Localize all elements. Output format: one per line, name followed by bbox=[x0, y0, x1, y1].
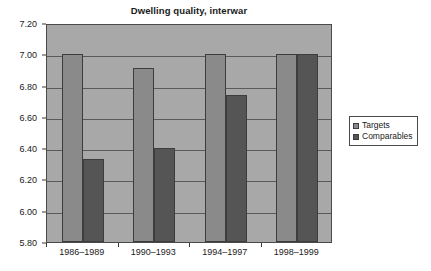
plot-inner bbox=[47, 25, 331, 242]
x-tick-mark bbox=[189, 243, 190, 247]
x-tick-label: 1986–1989 bbox=[59, 247, 104, 257]
y-tick-mark bbox=[42, 55, 46, 56]
y-tick-label: 5.80 bbox=[19, 238, 37, 248]
bar-targets-0 bbox=[62, 54, 83, 242]
y-tick-mark bbox=[42, 117, 46, 118]
legend-item-comparables[interactable]: Comparables bbox=[353, 131, 413, 142]
bar-chart: Dwelling quality, interwar 7.207.006.806… bbox=[0, 0, 431, 271]
y-tick-label: 7.00 bbox=[19, 50, 37, 60]
x-tick-label: 1990–1993 bbox=[131, 247, 176, 257]
bar-comparables-1 bbox=[154, 148, 175, 242]
y-tick-label: 6.00 bbox=[19, 207, 37, 217]
bar-comparables-0 bbox=[83, 159, 104, 242]
bar-comparables-2 bbox=[226, 95, 247, 242]
bar-targets-2 bbox=[205, 54, 226, 242]
y-tick-mark bbox=[42, 211, 46, 212]
y-tick-mark bbox=[42, 149, 46, 150]
bar-targets-1 bbox=[133, 68, 154, 242]
chart-title: Dwelling quality, interwar bbox=[46, 5, 332, 16]
x-tick-mark bbox=[261, 243, 262, 247]
y-tick-mark bbox=[42, 24, 46, 25]
y-axis: 7.207.006.806.606.406.206.005.80 bbox=[0, 24, 42, 243]
x-tick-mark bbox=[118, 243, 119, 247]
bar-comparables-3 bbox=[297, 54, 318, 242]
x-axis: 1986–19891990–19931994–19971998–1999 bbox=[46, 247, 332, 263]
y-tick-label: 6.20 bbox=[19, 175, 37, 185]
chart-legend: Targets Comparables bbox=[349, 116, 418, 146]
x-tick-mark bbox=[46, 243, 47, 247]
y-tick-label: 6.60 bbox=[19, 113, 37, 123]
y-tick-mark bbox=[42, 180, 46, 181]
legend-swatch-icon bbox=[353, 123, 359, 129]
legend-swatch-icon bbox=[353, 134, 359, 140]
x-tick-label: 1994–1997 bbox=[202, 247, 247, 257]
y-tick-mark bbox=[42, 86, 46, 87]
legend-item-targets[interactable]: Targets bbox=[353, 120, 413, 131]
legend-item-label: Comparables bbox=[362, 132, 413, 141]
x-tick-label: 1998–1999 bbox=[274, 247, 319, 257]
bar-targets-3 bbox=[276, 54, 297, 242]
y-tick-label: 6.40 bbox=[19, 144, 37, 154]
plot-area bbox=[46, 24, 332, 243]
legend-item-label: Targets bbox=[362, 121, 390, 130]
y-tick-label: 7.20 bbox=[19, 19, 37, 29]
y-tick-label: 6.80 bbox=[19, 82, 37, 92]
